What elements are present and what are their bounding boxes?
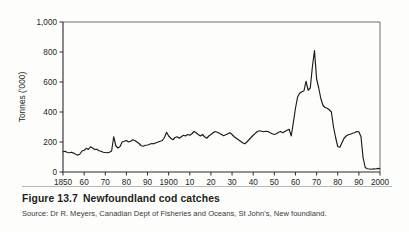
y-tick-label: 400 [43, 108, 57, 117]
x-tick-label: 60 [80, 178, 90, 187]
figure-container: 02004006008001,000 185060708090190010203… [0, 0, 409, 232]
y-axis-tick-labels: 02004006008001,000 [37, 18, 58, 177]
axis-frame [63, 22, 380, 172]
x-tick-label: 60 [291, 178, 301, 187]
caption-divider [22, 186, 392, 187]
x-tick-label: 30 [228, 178, 238, 187]
x-tick-label: 70 [101, 178, 111, 187]
y-tick-label: 800 [43, 48, 57, 57]
data-series-line [63, 51, 380, 170]
x-tick-label: 90 [354, 178, 364, 187]
y-axis-title: Tonnes ('000) [17, 72, 27, 123]
x-tick-label: 80 [122, 178, 132, 187]
x-tick-label: 1900 [160, 178, 179, 187]
y-tick-label: 600 [43, 78, 57, 87]
y-tick-label: 0 [52, 168, 57, 177]
y-tick-label: 200 [43, 138, 57, 147]
figure-caption: Figure 13.7Newfoundland cod catches [22, 192, 392, 205]
x-tick-label: 50 [270, 178, 280, 187]
figure-number: Figure 13.7 [22, 193, 78, 204]
figure-title: Newfoundland cod catches [83, 193, 220, 204]
cod-catches-line-chart: 02004006008001,000 185060708090190010203… [0, 0, 409, 186]
x-tick-label: 70 [312, 178, 322, 187]
x-tick-label: 10 [185, 178, 195, 187]
caption-block: Figure 13.7Newfoundland cod catches Sour… [22, 186, 392, 219]
y-tick-label: 1,000 [37, 18, 58, 27]
x-tick-label: 2000 [371, 178, 390, 187]
y-axis-title-text: Tonnes ('000) [17, 72, 27, 123]
figure-source: Source: Dr R. Meyers, Canadian Dept of F… [22, 209, 392, 219]
x-tick-label: 40 [249, 178, 259, 187]
x-axis-tick-labels: 18506070809019001020304050607080902000 [54, 178, 390, 187]
series-path [63, 51, 380, 170]
x-tick-label: 80 [333, 178, 343, 187]
x-tick-label: 90 [143, 178, 153, 187]
x-tick-label: 20 [206, 178, 216, 187]
x-tick-label: 1850 [54, 178, 73, 187]
chart-plot-area: 02004006008001,000 185060708090190010203… [0, 0, 409, 186]
